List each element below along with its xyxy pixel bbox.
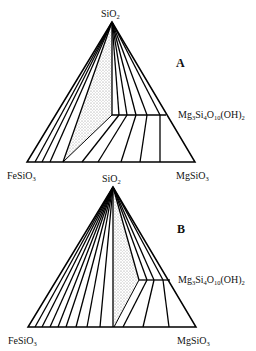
tie-line-talc-pyroxene bbox=[140, 115, 147, 162]
tie-line-talc-pyroxene bbox=[143, 280, 154, 327]
fesio3-label-a: FeSiO3 bbox=[7, 170, 36, 182]
panel-label-b: B bbox=[177, 222, 185, 236]
mgsio3-label-b: MgSiO3 bbox=[177, 335, 210, 347]
talc-label-b: Mg3Si4O10(OH)2 bbox=[178, 274, 245, 286]
ternary-diagrams: SiO2 A Mg3Si4O10(OH)2 FeSiO3 MgSiO3 SiO2… bbox=[0, 0, 256, 351]
tie-lines-b bbox=[35, 187, 169, 327]
panel-label-a: A bbox=[176, 56, 185, 70]
panel-a: SiO2 A Mg3Si4O10(OH)2 FeSiO3 MgSiO3 bbox=[7, 8, 245, 182]
talc-label-a: Mg3Si4O10(OH)2 bbox=[178, 109, 245, 121]
sio2-label-a: SiO2 bbox=[101, 8, 120, 20]
fesio3-label-b: FeSiO3 bbox=[8, 335, 37, 347]
mgsio3-label-a: MgSiO3 bbox=[176, 170, 209, 182]
sio2-label-b: SiO2 bbox=[102, 173, 121, 185]
tie-line-sio2-pyroxene bbox=[58, 187, 113, 327]
panel-b: SiO2 B Mg3Si4O10(OH)2 FeSiO3 MgSiO3 bbox=[8, 173, 245, 347]
tie-line-sio2-talc bbox=[112, 22, 147, 115]
tie-line-talc-pyroxene bbox=[163, 280, 169, 327]
